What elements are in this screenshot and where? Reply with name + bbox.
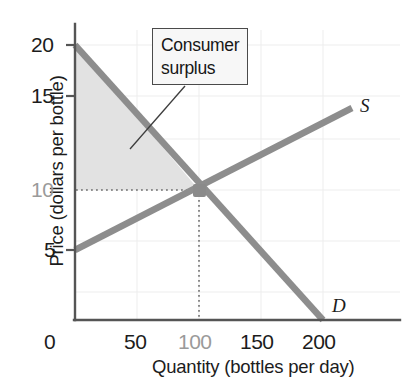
demand-curve-label: D [332,295,346,317]
y-tick-label-5: 5 [44,238,55,262]
y-tick-label-15: 15 [31,84,53,108]
x-tick-label-100: 100 [178,330,212,354]
equilibrium-point-marker [193,184,206,197]
x-tick-label-50: 50 [124,330,146,354]
y-tick-label-10: 10 [31,178,53,202]
annotation-line-1: Consumer [161,34,247,57]
y-tick-label-20: 20 [31,33,53,57]
origin-label: 0 [44,330,55,354]
x-tick-label-200: 200 [302,330,336,354]
supply-demand-chart: Price (dollars per bottle) 20 15 10 5 0 … [0,0,415,383]
supply-curve-label: S [360,95,370,117]
consumer-surplus-annotation-box: Consumer surplus [152,28,248,85]
consumer-surplus-annotation-text: Consumer surplus [161,34,247,80]
annotation-line-2: surplus [161,57,247,80]
x-tick-label-150: 150 [240,330,274,354]
x-axis-title: Quantity (bottles per day) [152,356,355,378]
